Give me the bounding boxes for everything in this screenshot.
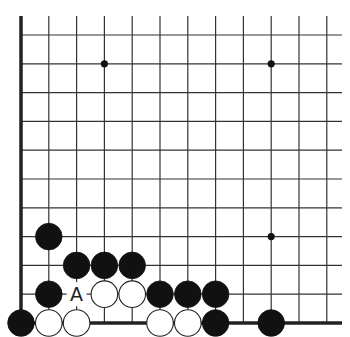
black-stone[interactable] [175,281,202,308]
labels-layer: A [67,282,87,306]
star-point-icon [101,60,108,67]
black-stone[interactable] [91,252,118,279]
black-stone[interactable] [8,310,35,337]
white-stone[interactable] [63,310,90,337]
star-point-icon [268,60,275,67]
black-stone[interactable] [119,252,146,279]
white-stone[interactable] [36,310,63,337]
white-stone[interactable] [119,281,146,308]
white-stone[interactable] [175,310,202,337]
black-stone[interactable] [258,310,285,337]
black-stone[interactable] [202,310,229,337]
white-stone[interactable] [91,281,118,308]
black-stone[interactable] [36,281,63,308]
go-board[interactable]: A [0,0,350,337]
black-stone[interactable] [147,281,174,308]
black-stone[interactable] [202,281,229,308]
white-stone[interactable] [147,310,174,337]
board-grid [20,16,343,325]
black-stone[interactable] [63,252,90,279]
black-stone[interactable] [36,223,63,250]
star-point-icon [268,233,275,240]
point-label: A [70,283,83,305]
